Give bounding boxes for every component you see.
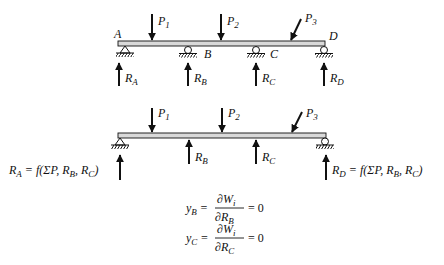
point-label-c: C: [270, 47, 279, 61]
point-label-d: D: [328, 29, 338, 43]
bottom-beam-figure: P1 P2 P3 RB RC RA = f(ΣP, RB, RC) RD = f…: [8, 106, 422, 180]
support-a-pin: [116, 46, 134, 57]
support-c-roller: [247, 47, 265, 58]
svg-text:yB=: yB=: [185, 201, 208, 217]
support-a-pin-bottom: [111, 138, 129, 149]
equation-yb: yB= ∂Wi ∂RB = 0: [185, 192, 264, 226]
svg-text:∂Wi: ∂Wi: [217, 192, 236, 208]
svg-text:= 0: = 0: [248, 201, 264, 215]
svg-text:yC=: yC=: [185, 231, 208, 247]
redundant-label-rb: RB: [194, 150, 208, 166]
rd-expression: RD = f(ΣP, RB, RC): [331, 163, 422, 179]
redundant-label-rc: RC: [261, 150, 276, 166]
support-d-roller-bottom: [316, 138, 334, 149]
load-label-p2-bottom: P2: [227, 106, 240, 122]
top-beam-figure: A B C D P1 P2 P3 RA RB RC RD: [113, 11, 344, 87]
point-label-a: A: [113, 27, 122, 41]
load-arrow-p3: [291, 19, 301, 40]
load-label-p2: P2: [226, 14, 239, 30]
svg-text:= 0: = 0: [248, 231, 264, 245]
support-d-roller: [315, 47, 333, 58]
top-beam: [118, 41, 325, 46]
load-label-p1: P1: [157, 14, 170, 30]
point-label-b: B: [204, 47, 212, 61]
reaction-label-rb: RB: [193, 71, 207, 87]
ra-expression: RA = f(ΣP, RB, RC): [8, 163, 98, 179]
reaction-label-rd: RD: [329, 71, 344, 87]
equation-yc: yC= ∂Wi ∂RC = 0: [185, 222, 264, 256]
reaction-label-ra: RA: [124, 71, 138, 87]
svg-text:∂RC: ∂RC: [215, 240, 235, 256]
bottom-beam: [118, 133, 326, 138]
load-label-p1-bottom: P1: [157, 106, 170, 122]
reaction-label-rc: RC: [261, 71, 276, 87]
load-label-p3: P3: [304, 11, 317, 27]
load-arrow-p3-bottom: [292, 112, 302, 132]
load-label-p3-bottom: P3: [305, 106, 318, 122]
beam-diagram: A B C D P1 P2 P3 RA RB RC RD: [0, 0, 444, 265]
support-b-roller: [179, 47, 197, 58]
diagram-svg: A B C D P1 P2 P3 RA RB RC RD: [0, 0, 444, 265]
